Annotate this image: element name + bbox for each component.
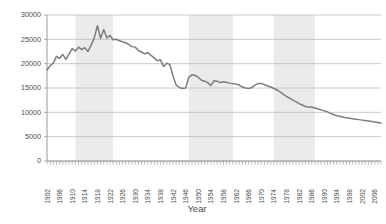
x-tick-label: 1910 bbox=[69, 189, 76, 204]
x-tick-label: 1954 bbox=[207, 189, 214, 204]
x-tick-label: 1994 bbox=[333, 189, 340, 204]
x-tick-label: 2006 bbox=[371, 189, 378, 204]
x-tick-label: 1914 bbox=[81, 189, 88, 204]
y-axis-tick-labels: 050001000015000200002500030000 bbox=[21, 10, 41, 165]
x-tick-label: 1950 bbox=[195, 189, 202, 204]
y-tick-label: 10000 bbox=[21, 108, 41, 117]
x-tick-label: 1922 bbox=[107, 189, 114, 204]
x-tick-label: 1970 bbox=[258, 189, 265, 204]
x-tick-label: 1958 bbox=[220, 189, 227, 204]
x-tick-label: 1926 bbox=[119, 189, 126, 204]
x-tick-label: 2002 bbox=[359, 189, 366, 204]
y-tick-label: 25000 bbox=[21, 35, 41, 44]
x-axis-tick-marks bbox=[47, 161, 381, 165]
x-tick-label: 1982 bbox=[296, 189, 303, 204]
x-tick-label: 1974 bbox=[270, 189, 277, 204]
x-tick-label: 1934 bbox=[144, 189, 151, 204]
x-tick-label: 1942 bbox=[170, 189, 177, 204]
y-tick-label: 20000 bbox=[21, 59, 41, 68]
x-tick-label: 1902 bbox=[44, 189, 51, 204]
x-tick-label: 1906 bbox=[56, 189, 63, 204]
line-chart: 050001000015000200002500030000 190219061… bbox=[0, 0, 386, 224]
x-axis-tick-labels: 1902190619101914191819221926193019341938… bbox=[44, 189, 379, 204]
x-tick-label: 1930 bbox=[132, 189, 139, 204]
chart-container: 050001000015000200002500030000 190219061… bbox=[0, 0, 386, 224]
x-tick-label: 1986 bbox=[308, 189, 315, 204]
x-tick-label: 1966 bbox=[245, 189, 252, 204]
y-tick-label: 15000 bbox=[21, 83, 41, 92]
x-tick-label: 1938 bbox=[157, 189, 164, 204]
x-tick-label: 1990 bbox=[321, 189, 328, 204]
x-tick-label: 1998 bbox=[346, 189, 353, 204]
x-tick-label: 1918 bbox=[94, 189, 101, 204]
x-tick-label: 1978 bbox=[283, 189, 290, 204]
y-tick-label: 0 bbox=[37, 156, 41, 165]
y-tick-label: 5000 bbox=[25, 132, 41, 141]
x-tick-label: 1962 bbox=[233, 189, 240, 204]
x-tick-label: 1946 bbox=[182, 189, 189, 204]
y-tick-label: 30000 bbox=[21, 10, 41, 19]
x-axis-title: Year bbox=[187, 203, 206, 214]
